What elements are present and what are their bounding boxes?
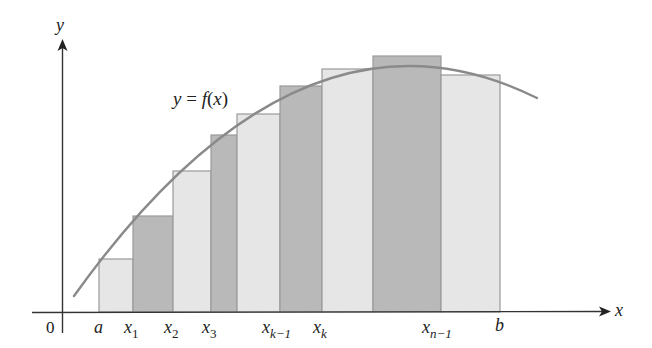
rectangle-6 [280, 86, 322, 312]
tick-label-x2: x2 [163, 317, 179, 341]
tick-label-x3: x3 [201, 317, 217, 341]
rectangle-4 [211, 135, 237, 312]
x-axis [32, 312, 603, 313]
rectangle-2 [133, 216, 173, 312]
origin-label: 0 [46, 318, 55, 337]
x-axis-label: x [614, 300, 623, 320]
rectangle-1 [99, 259, 133, 312]
tick-label-xn-1: xn−1 [421, 317, 452, 341]
tick-label-xk: xk [312, 317, 327, 341]
tick-label-x1: x1 [123, 317, 139, 341]
rectangle-5 [237, 114, 280, 312]
rectangle-8 [373, 56, 441, 312]
tick-labels: a x1 x2 x3 xk−1 xk xn−1 b [94, 315, 504, 341]
curve-label: y = f(x) [171, 88, 228, 110]
tick-label-xk-1: xk−1 [261, 317, 291, 341]
rectangles-group [99, 56, 500, 312]
rectangle-3 [173, 171, 211, 312]
riemann-sum-diagram: y x 0 y = f(x) a x1 x2 x3 xk−1 xk xn−1 b [0, 0, 652, 348]
tick-label-a: a [94, 317, 103, 337]
rectangle-9 [441, 75, 500, 312]
tick-label-b: b [495, 315, 504, 335]
rectangle-7 [322, 69, 373, 312]
y-axis-label: y [54, 15, 64, 35]
